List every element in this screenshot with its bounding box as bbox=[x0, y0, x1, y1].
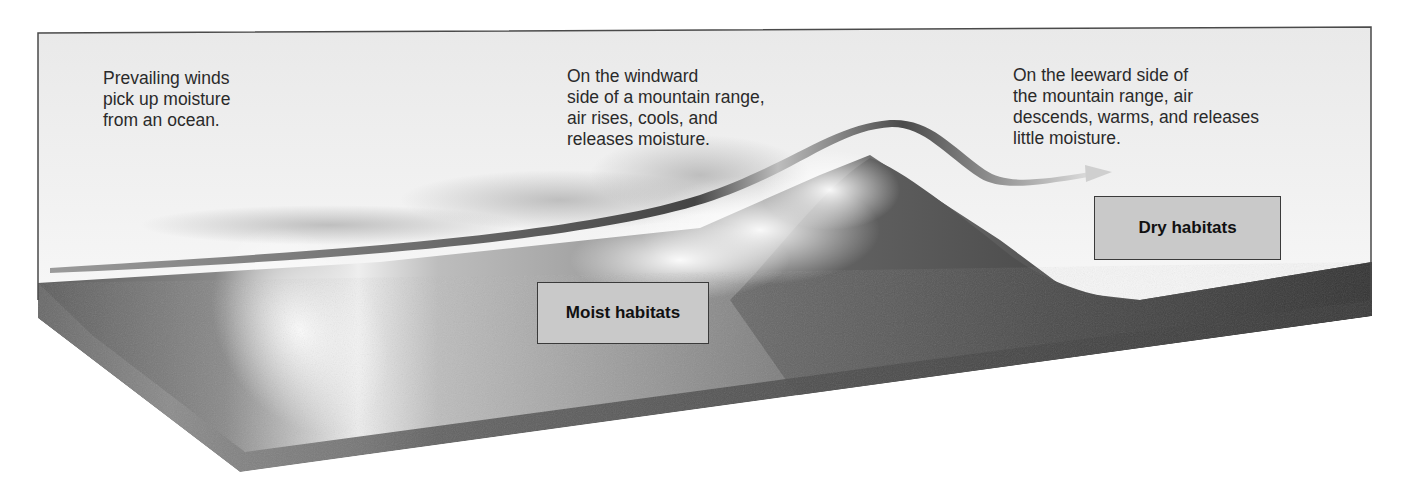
caption-leeward: On the leeward side of the mountain rang… bbox=[1013, 65, 1259, 149]
label-dry-habitats: Dry habitats bbox=[1094, 196, 1281, 260]
rain-shadow-diagram: Prevailing winds pick up moisture from a… bbox=[0, 0, 1409, 497]
caption-ocean: Prevailing winds pick up moisture from a… bbox=[103, 68, 230, 131]
label-moist-habitats: Moist habitats bbox=[537, 282, 709, 344]
label-moist-habitats-text: Moist habitats bbox=[566, 303, 680, 323]
caption-windward: On the windward side of a mountain range… bbox=[567, 66, 765, 150]
label-dry-habitats-text: Dry habitats bbox=[1138, 218, 1236, 238]
